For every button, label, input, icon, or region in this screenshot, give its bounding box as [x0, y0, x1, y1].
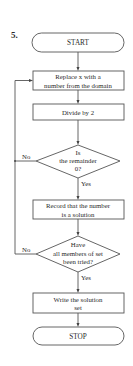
decision1-no-label: No [22, 153, 31, 160]
decision2-line2: all members of set [53, 250, 103, 257]
decision1-line2: the remainder [59, 157, 97, 164]
stop-label: STOP [69, 333, 86, 341]
decision2-line1: Have [71, 241, 85, 248]
start-terminal: START [32, 33, 124, 52]
write-line2: set [74, 304, 82, 311]
stop-terminal: STOP [33, 327, 124, 345]
all-members-tried-decision-diamond: Have all members of set been tried? [36, 236, 120, 272]
write-solution-process-box: Write the solution set [33, 293, 124, 313]
decision2-no-label: No [22, 246, 31, 253]
replace-process-box: Replace x with a number from the domain [33, 71, 124, 90]
flowchart: 5. START Replace x with a number from th… [0, 0, 133, 366]
divide-process-box: Divide by 2 [33, 104, 124, 120]
problem-number: 5. [11, 30, 18, 40]
replace-line1: Replace x with a [55, 73, 100, 80]
replace-line2: number from the domain [44, 82, 112, 89]
decision2-line3: been tried? [63, 258, 93, 265]
divide-label: Divide by 2 [62, 109, 95, 116]
record-line1: Record that the number [46, 202, 111, 209]
decision1-line3: 0? [75, 165, 81, 172]
record-process-box: Record that the number is a solution [33, 200, 124, 219]
record-line2: is a solution [62, 211, 95, 218]
decision2-yes-label: Yes [81, 274, 91, 281]
decision1-line1: Is [76, 149, 81, 156]
remainder-decision-diamond: Is the remainder 0? [36, 145, 120, 178]
decision1-yes-label: Yes [81, 180, 91, 187]
write-line1: Write the solution [54, 296, 103, 303]
start-label: START [67, 39, 89, 47]
